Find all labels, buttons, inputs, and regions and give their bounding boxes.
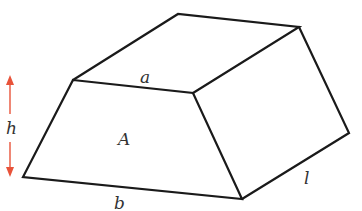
top-face-edges	[73, 14, 299, 93]
height-label: h	[6, 118, 17, 138]
front-face	[23, 80, 242, 199]
top-edge-label: a	[140, 67, 150, 87]
length-label: l	[304, 168, 309, 188]
area-label: A	[116, 129, 130, 149]
bottom-edge-label: b	[114, 193, 125, 211]
prism-diagram: h a A b l	[0, 0, 362, 211]
